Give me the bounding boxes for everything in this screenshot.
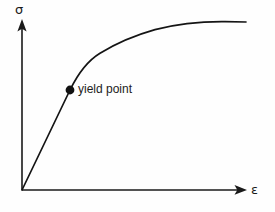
y-axis-label-sigma: σ [15,3,23,16]
x-axis-label-epsilon: ε [251,183,258,196]
stress-strain-figure: σ ε yield point [0,0,275,212]
yield-point-label: yield point [78,83,132,95]
stress-strain-curve [22,22,246,190]
yield-point-marker [66,86,75,95]
figure-canvas [0,0,275,212]
